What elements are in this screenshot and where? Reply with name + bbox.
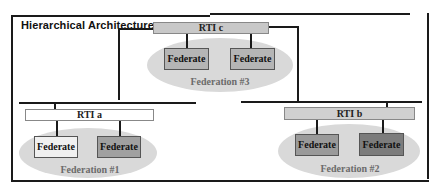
rti-a-box: RTI a bbox=[25, 109, 154, 121]
federate-label: Federate bbox=[363, 139, 401, 150]
frame-bottom bbox=[11, 180, 429, 182]
link-c-fed1 bbox=[186, 34, 188, 48]
rti-b-box: RTI b bbox=[284, 107, 415, 120]
federation-3-label: Federation #3 bbox=[180, 76, 260, 87]
rti-c-box: RTI c bbox=[153, 22, 269, 34]
federate-box: Federate bbox=[34, 136, 78, 158]
federate-label: Federate bbox=[100, 141, 138, 152]
link-c-fed2 bbox=[250, 34, 252, 48]
federate-label: Federate bbox=[234, 53, 272, 64]
bus-right bbox=[241, 101, 422, 103]
federate-label: Federate bbox=[168, 53, 206, 64]
connector-c-right-h bbox=[269, 26, 299, 28]
federate-label: Federate bbox=[37, 141, 75, 152]
federate-label: Federate bbox=[298, 139, 336, 150]
frame-right-edge bbox=[427, 13, 429, 179]
rti-a-label: RTI a bbox=[77, 109, 102, 120]
federation-1-label: Federation #1 bbox=[50, 164, 130, 175]
bus-left bbox=[19, 102, 196, 104]
frame-top bbox=[11, 15, 210, 17]
federate-box: Federate bbox=[230, 48, 275, 70]
federate-box: Federate bbox=[97, 136, 141, 158]
link-b-fed1 bbox=[316, 120, 318, 134]
rti-c-label: RTI c bbox=[199, 22, 223, 33]
federate-box: Federate bbox=[359, 133, 404, 156]
frame-top-right bbox=[210, 13, 410, 15]
federate-box: Federate bbox=[295, 134, 339, 156]
link-a-fed2 bbox=[119, 121, 121, 136]
rti-b-label: RTI b bbox=[337, 108, 363, 119]
connector-c-right-v bbox=[297, 26, 299, 102]
link-b-fed2 bbox=[382, 120, 384, 134]
connector-c-left-h bbox=[118, 28, 153, 30]
frame-left bbox=[11, 16, 13, 181]
federation-2-label: Federation #2 bbox=[310, 163, 390, 174]
link-a-fed1 bbox=[56, 121, 58, 136]
federate-box: Federate bbox=[164, 48, 209, 70]
connector-c-left-v bbox=[118, 28, 120, 100]
